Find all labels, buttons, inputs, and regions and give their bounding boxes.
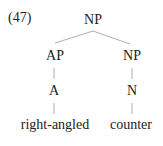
node-n: N — [127, 84, 137, 98]
leaf-counter: counter — [110, 118, 152, 132]
node-ap: AP — [46, 49, 64, 63]
leaf-right-angled: right-angled — [21, 118, 89, 132]
node-np-right: NP — [123, 49, 141, 63]
node-a: A — [49, 84, 59, 98]
root-node-np: NP — [84, 13, 102, 27]
